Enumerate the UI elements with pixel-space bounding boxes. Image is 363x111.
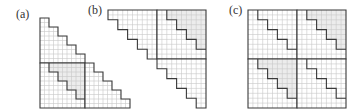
block-r1-c1	[85, 63, 130, 108]
block-r0-c1	[297, 10, 346, 59]
panel-b	[108, 10, 206, 108]
panel-c	[248, 10, 346, 108]
block-r0-c0	[248, 10, 297, 59]
staircase-matrix-diagram	[0, 0, 363, 111]
block-r0-c0	[40, 18, 85, 63]
block-r1-c1	[157, 59, 206, 108]
panel-a	[40, 18, 130, 108]
block-r0-c0	[108, 10, 157, 59]
block-r1-c1	[297, 59, 346, 108]
block-r0-c1	[157, 10, 206, 59]
block-r1-c0	[248, 59, 297, 108]
block-r1-c0	[40, 63, 85, 108]
